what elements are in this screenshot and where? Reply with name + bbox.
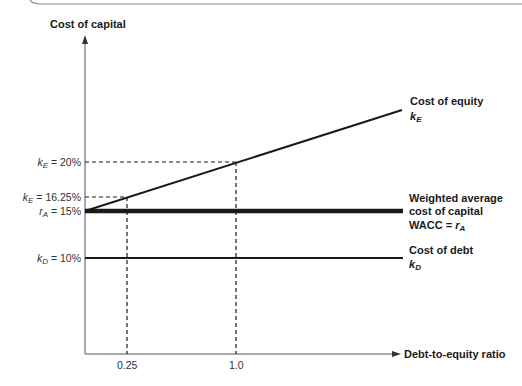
y-tick-ke-20: kE = 20%: [37, 156, 81, 170]
legend-cost-of-debt: Cost of debt kD: [409, 244, 473, 272]
y-tick-kd-10: kD = 10%: [37, 252, 81, 266]
x-tick-1-0: 1.0: [229, 359, 244, 371]
svg-text:cost of capital: cost of capital: [409, 205, 483, 217]
x-axis: Debt-to-equity ratio 0.25 1.0: [85, 348, 506, 371]
svg-text:WACC = rA: WACC = rA: [409, 219, 465, 233]
y-axis-arrow-icon: [82, 35, 88, 44]
chart-canvas: Cost of capital Debt-to-equity ratio 0.2…: [0, 0, 522, 386]
svg-text:Cost of debt: Cost of debt: [409, 244, 473, 256]
legend-cost-of-equity: Cost of equity kE: [410, 95, 484, 124]
svg-text:kD: kD: [409, 258, 421, 272]
legend-wacc: Weighted average cost of capital WACC = …: [409, 192, 503, 233]
x-axis-arrow-icon: [392, 351, 401, 357]
svg-text:Weighted average: Weighted average: [409, 192, 503, 204]
cost-of-equity-line: [85, 110, 402, 211]
y-axis-label: Cost of capital: [50, 18, 126, 30]
frame-border: [30, 0, 522, 4]
y-axis: Cost of capital: [50, 18, 126, 354]
y-tick-ke-16-25: kE = 16.25%: [23, 191, 81, 205]
x-axis-label: Debt-to-equity ratio: [404, 348, 506, 360]
x-tick-0-25: 0.25: [117, 359, 138, 371]
y-tick-ra-15: rA = 15%: [39, 205, 81, 219]
svg-text:kE: kE: [410, 110, 422, 124]
svg-text:Cost of equity: Cost of equity: [410, 95, 484, 107]
